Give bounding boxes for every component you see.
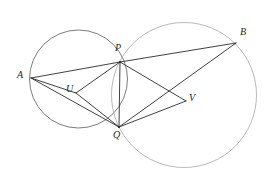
circle-left: [30, 30, 128, 128]
point-label-P: P: [115, 43, 121, 53]
geometry-canvas: [0, 0, 272, 187]
point-label-A: A: [17, 70, 23, 80]
point-marker-P: [119, 61, 121, 63]
segments-group: [31, 43, 236, 127]
seg-AQ: [31, 78, 119, 127]
seg-PB: [120, 43, 236, 62]
point-label-V: V: [189, 93, 195, 103]
point-label-Q: Q: [113, 130, 120, 140]
point-label-U: U: [66, 84, 73, 94]
seg-PQ: [119, 62, 120, 127]
point-marker-Q: [118, 126, 120, 128]
point-label-B: B: [240, 27, 246, 37]
circles-group: [30, 23, 257, 168]
seg-QB: [119, 43, 236, 127]
seg-QV: [119, 101, 186, 127]
seg-AP: [31, 62, 120, 78]
seg-PV: [120, 62, 186, 101]
seg-UQ: [76, 93, 119, 127]
geometry-figure: APQBUV: [0, 0, 272, 187]
